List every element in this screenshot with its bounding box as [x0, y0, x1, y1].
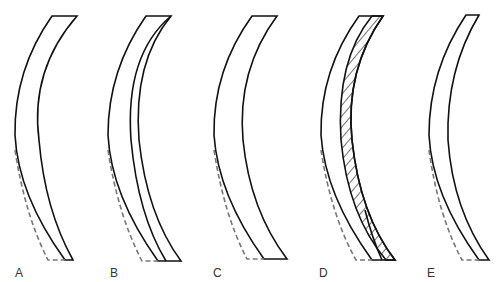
- panel-c-lens: [214, 16, 287, 259]
- panel-label-a: A: [15, 266, 23, 280]
- panel-d-lens: [321, 16, 395, 260]
- panel-a-lens: [15, 16, 77, 260]
- panel-e-lens: [429, 15, 489, 260]
- panel-b-lens: [108, 16, 181, 261]
- panel-label-d: D: [319, 266, 328, 280]
- panel-label-b: B: [110, 266, 118, 280]
- panel-label-c: C: [213, 266, 222, 280]
- lens-diagram: [0, 0, 498, 282]
- panel-label-e: E: [427, 266, 435, 280]
